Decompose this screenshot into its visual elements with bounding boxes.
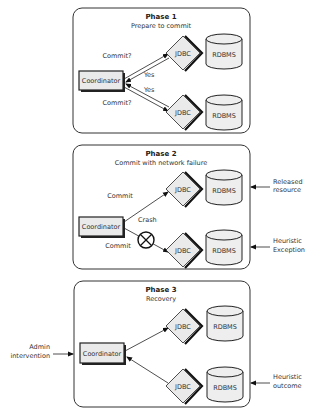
svg-text:JDBC: JDBC xyxy=(174,186,191,194)
commit-label-top: Commit xyxy=(107,192,133,200)
yes-label-top: Yes xyxy=(143,71,155,79)
coordinator-label: Coordinator xyxy=(82,77,121,85)
svg-text:RDBMS: RDBMS xyxy=(212,247,236,255)
heuristic-exception-label-line2: Exception xyxy=(273,246,305,254)
svg-text:RDBMS: RDBMS xyxy=(212,112,236,120)
phase-2-panel: Phase 2 Commit with network failure Coor… xyxy=(73,145,305,269)
database-cylinder-icon: RDBMS xyxy=(206,170,242,205)
database-cylinder-icon: RDBMS xyxy=(207,367,243,402)
svg-text:JDBC: JDBC xyxy=(174,247,191,255)
svg-text:JDBC: JDBC xyxy=(174,383,191,391)
released-resource-label-line1: Released xyxy=(273,178,303,186)
svg-text:RDBMS: RDBMS xyxy=(212,187,236,195)
commit-question-label-bottom: Commit? xyxy=(103,99,132,107)
database-cylinder-icon: RDBMS xyxy=(207,306,243,341)
svg-text:RDBMS: RDBMS xyxy=(212,51,236,59)
database-cylinder-icon: RDBMS xyxy=(206,34,242,69)
heuristic-outcome-label-line2: outcome xyxy=(273,382,302,390)
coordinator-label: Coordinator xyxy=(82,223,121,231)
phase-3-subtitle: Recovery xyxy=(146,295,176,303)
svg-text:JDBC: JDBC xyxy=(174,323,191,331)
admin-intervention-label-line1: Admin xyxy=(29,343,50,351)
crash-icon xyxy=(138,232,154,248)
svg-text:JDBC: JDBC xyxy=(174,50,191,58)
coordinator-label: Coordinator xyxy=(83,350,122,358)
svg-text:RDBMS: RDBMS xyxy=(213,384,237,392)
database-cylinder-icon: RDBMS xyxy=(206,95,242,130)
released-resource-label-line2: resource xyxy=(273,186,301,194)
phase-1-panel: Phase 1 Prepare to commit Coordinator Co… xyxy=(73,8,250,133)
database-cylinder-icon: RDBMS xyxy=(206,230,242,265)
svg-text:RDBMS: RDBMS xyxy=(213,323,237,331)
phase-2-title: Phase 2 xyxy=(145,150,176,158)
two-phase-commit-diagram: Phase 1 Prepare to commit Coordinator Co… xyxy=(0,0,311,413)
crash-label: Crash xyxy=(138,216,157,224)
phase-3-title: Phase 3 xyxy=(145,286,176,294)
phase-2-subtitle: Commit with network failure xyxy=(115,159,207,167)
commit-question-label-top: Commit? xyxy=(103,52,132,60)
commit-label-bottom: Commit xyxy=(105,242,131,250)
heuristic-exception-label-line1: Heuristic xyxy=(273,237,302,245)
phase-1-title: Phase 1 xyxy=(145,13,176,21)
svg-text:JDBC: JDBC xyxy=(174,109,191,117)
phase-1-subtitle: Prepare to commit xyxy=(131,22,192,30)
phase-3-panel: Phase 3 Recovery Coordinator JDBC JDBC R… xyxy=(10,281,302,407)
heuristic-outcome-label-line1: Heuristic xyxy=(273,373,302,381)
admin-intervention-label-line2: intervention xyxy=(10,352,50,360)
yes-label-bottom: Yes xyxy=(143,86,155,94)
